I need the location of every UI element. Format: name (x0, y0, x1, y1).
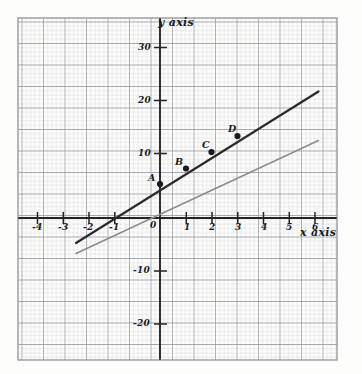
graph-paper-sheet: y axis x axis 30 20 10 -10 -20 -4 -3 -2 … (0, 0, 362, 374)
x-tick-label-neg1: -1 (109, 222, 120, 232)
point-label-c: C (202, 139, 210, 150)
y-tick-label-neg10: -10 (133, 265, 150, 275)
x-tick-label-0: 0 (150, 220, 157, 230)
x-tick-label-6: 6 (312, 222, 319, 232)
x-tick-label-5: 5 (286, 222, 293, 232)
y-tick-label-20: 20 (138, 95, 151, 105)
x-tick-label-3: 3 (235, 222, 242, 232)
x-tick-label-neg4: -4 (32, 222, 43, 232)
point-label-b: B (175, 156, 183, 167)
x-tick-label-1: 1 (184, 222, 191, 232)
point-label-d: D (228, 123, 237, 134)
point-marker-b (183, 165, 189, 171)
coordinate-graph (0, 0, 362, 374)
x-tick-label-4: 4 (261, 222, 268, 232)
y-tick-label-neg20: -20 (133, 318, 150, 328)
grid-background (18, 18, 337, 360)
point-marker-a (157, 181, 163, 187)
x-tick-label-neg3: -3 (58, 222, 69, 232)
x-tick-label-neg2: -2 (83, 222, 94, 232)
point-label-a: A (148, 172, 156, 183)
x-tick-label-2: 2 (209, 222, 216, 232)
y-axis-label: y axis (158, 16, 194, 29)
y-tick-label-10: 10 (138, 148, 151, 158)
y-tick-label-30: 30 (138, 42, 151, 52)
